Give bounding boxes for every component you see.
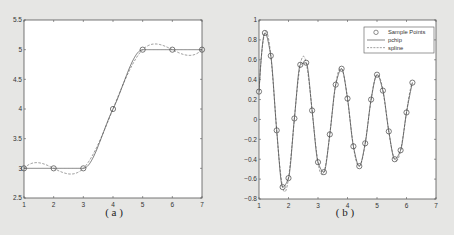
y-tick-label: 5.5	[13, 16, 22, 23]
x-tick-label: 7	[200, 201, 204, 208]
legend-label: spline	[388, 45, 403, 51]
x-tick-label: 2	[287, 202, 291, 209]
caption-b: ( b )	[315, 206, 375, 218]
y-tick-label: 3.5	[13, 135, 22, 142]
x-tick-label: 2	[52, 201, 56, 208]
y-tick-label: −0.2	[244, 136, 257, 143]
y-tick-label: −0.6	[244, 175, 257, 182]
x-tick-label: 1	[257, 202, 261, 209]
caption-a: ( a )	[84, 206, 144, 218]
x-tick-label: 1	[22, 201, 26, 208]
y-tick-label: 0.2	[248, 96, 257, 103]
legend-label: pchip	[388, 37, 402, 43]
y-tick-label: −0.8	[244, 195, 257, 202]
x-tick-label: 7	[434, 202, 438, 209]
y-tick-label: 3	[18, 165, 22, 172]
chart-b-plot: 1234567−0.8−0.6−0.4−0.200.20.40.60.81Sam…	[227, 0, 454, 235]
y-tick-label: 4.5	[13, 76, 22, 83]
y-tick-label: 0.4	[248, 76, 257, 83]
y-tick-label: 4	[18, 105, 22, 112]
chart-a-plot: 12345672.533.544.555.5	[0, 0, 227, 235]
y-tick-label: 0	[253, 116, 257, 123]
y-tick-label: 0.6	[248, 56, 257, 63]
x-tick-label: 5	[375, 202, 379, 209]
y-tick-label: 5	[18, 46, 22, 53]
y-tick-label: −0.4	[244, 156, 257, 163]
chart-panel-b: 1234567−0.8−0.6−0.4−0.200.20.40.60.81Sam…	[227, 0, 454, 235]
y-tick-label: 1	[253, 16, 257, 23]
chart-panel-a: 12345672.533.544.555.5 ( a )	[0, 0, 227, 235]
x-tick-label: 6	[405, 202, 409, 209]
legend-label: Sample Points	[388, 29, 425, 35]
y-tick-label: 2.5	[13, 194, 22, 201]
legend: Sample Pointspchipspline	[364, 27, 434, 53]
x-tick-label: 6	[171, 201, 175, 208]
y-tick-label: 0.8	[248, 36, 257, 43]
